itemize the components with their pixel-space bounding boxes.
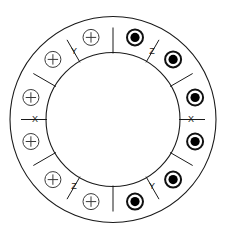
stator-cross-section-svg: ZYXZYX xyxy=(0,0,231,239)
current-out-dot xyxy=(191,137,200,146)
conductor-dot-icon xyxy=(165,172,181,188)
conductor-plus-icon xyxy=(23,90,39,106)
conductor-plus-icon xyxy=(83,29,99,45)
conductor-dot-icon xyxy=(165,51,181,67)
conductor-dot-icon xyxy=(127,194,143,210)
slot-wall-line xyxy=(33,153,56,166)
phase-label-z: Z xyxy=(149,46,155,56)
conductor-plus-icon xyxy=(45,172,61,188)
conductor-plus-icon xyxy=(23,134,39,150)
current-out-dot xyxy=(191,93,200,102)
current-out-dot xyxy=(169,55,178,64)
machine-cross-section-diagram: ZYXZYX xyxy=(0,0,231,239)
phase-label-y: Y xyxy=(149,181,155,191)
conductors-group xyxy=(23,29,203,209)
current-out-dot xyxy=(130,197,139,206)
phase-label-z: Z xyxy=(71,181,77,191)
current-out-dot xyxy=(169,175,178,184)
conductor-dot-icon xyxy=(187,134,203,150)
conductor-plus-icon xyxy=(45,51,61,67)
current-out-dot xyxy=(130,33,139,42)
phase-label-x: X xyxy=(32,114,38,124)
phase-label-y: Y xyxy=(71,46,77,56)
conductor-plus-icon xyxy=(83,194,99,210)
phase-label-x: X xyxy=(188,114,194,124)
conductor-dot-icon xyxy=(187,90,203,106)
slot-wall-line xyxy=(170,74,193,87)
slot-wall-line xyxy=(33,74,56,87)
phase-labels-group: ZYXZYX xyxy=(32,46,194,191)
conductor-dot-icon xyxy=(127,29,143,45)
slot-wall-line xyxy=(170,153,193,166)
rotor-bore-circle xyxy=(46,53,180,187)
